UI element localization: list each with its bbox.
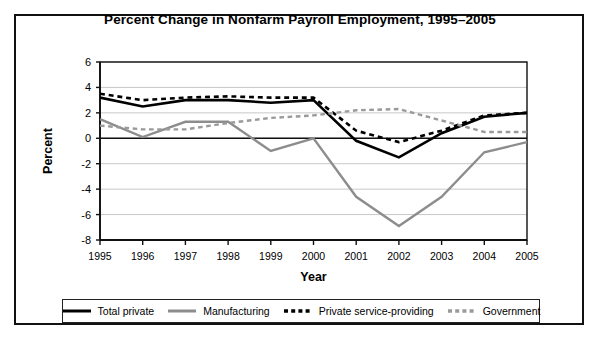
figure-border xyxy=(14,14,584,325)
legend-item-government[interactable]: Government xyxy=(447,305,541,317)
chart-legend: Total privateManufacturingPrivate servic… xyxy=(62,299,540,323)
legend-item-manufacturing[interactable]: Manufacturing xyxy=(167,305,270,317)
legend-swatch xyxy=(167,306,197,316)
chart-title: Percent Change in Nonfarm Payroll Employ… xyxy=(0,12,600,27)
legend-swatch xyxy=(283,306,313,316)
legend-item-total-private[interactable]: Total private xyxy=(62,305,155,317)
legend-swatch xyxy=(62,306,92,316)
legend-label: Total private xyxy=(98,305,155,317)
legend-label: Manufacturing xyxy=(203,305,270,317)
legend-label: Private service-providing xyxy=(319,305,434,317)
legend-label: Government xyxy=(483,305,541,317)
legend-swatch xyxy=(447,306,477,316)
legend-item-private-service-providing[interactable]: Private service-providing xyxy=(283,305,434,317)
